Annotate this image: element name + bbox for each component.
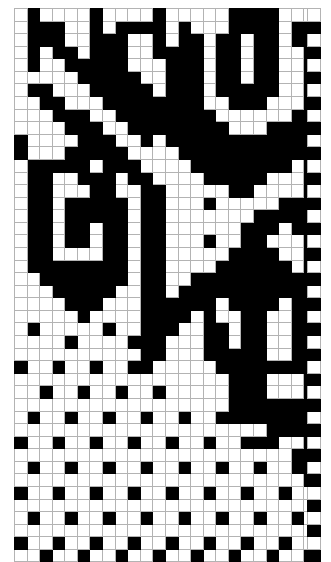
pattern-cell[interactable] xyxy=(253,273,266,286)
pattern-cell[interactable] xyxy=(266,260,279,273)
pattern-cell[interactable] xyxy=(266,46,279,59)
pattern-cell[interactable] xyxy=(65,172,78,185)
pattern-cell[interactable] xyxy=(52,147,65,160)
pattern-cell[interactable] xyxy=(216,273,229,286)
pattern-cell[interactable] xyxy=(15,512,28,525)
pattern-cell[interactable] xyxy=(115,549,128,562)
pattern-cell[interactable] xyxy=(140,424,153,437)
pattern-cell[interactable] xyxy=(15,222,28,235)
pattern-cell[interactable] xyxy=(27,97,40,110)
pattern-cell[interactable] xyxy=(103,34,116,47)
pattern-cell[interactable] xyxy=(77,524,90,537)
pattern-cell[interactable] xyxy=(153,499,166,512)
pattern-cell[interactable] xyxy=(253,34,266,47)
pattern-cell[interactable] xyxy=(65,424,78,437)
pattern-cell[interactable] xyxy=(52,235,65,248)
pattern-cell[interactable] xyxy=(291,34,304,47)
pattern-cell[interactable] xyxy=(77,46,90,59)
pattern-cell[interactable] xyxy=(77,235,90,248)
pattern-cell[interactable] xyxy=(90,411,103,424)
pattern-cell[interactable] xyxy=(191,59,204,72)
pattern-cell[interactable] xyxy=(241,71,254,84)
pattern-cell[interactable] xyxy=(65,109,78,122)
pattern-cell[interactable] xyxy=(178,222,191,235)
pattern-cell[interactable] xyxy=(279,159,292,172)
pattern-cell[interactable] xyxy=(15,260,28,273)
pattern-cell[interactable] xyxy=(90,235,103,248)
pattern-cell[interactable] xyxy=(103,109,116,122)
pattern-cell[interactable] xyxy=(40,398,53,411)
pattern-cell[interactable] xyxy=(115,134,128,147)
pattern-cell[interactable] xyxy=(65,461,78,474)
pattern-cell[interactable] xyxy=(291,323,304,336)
pattern-cell[interactable] xyxy=(140,348,153,361)
selvedge-cell[interactable] xyxy=(308,524,321,537)
pattern-cell[interactable] xyxy=(228,474,241,487)
pattern-cell[interactable] xyxy=(178,197,191,210)
pattern-cell[interactable] xyxy=(178,474,191,487)
pattern-cell[interactable] xyxy=(279,537,292,550)
pattern-cell[interactable] xyxy=(103,436,116,449)
pattern-cell[interactable] xyxy=(203,411,216,424)
pattern-cell[interactable] xyxy=(165,373,178,386)
pattern-cell[interactable] xyxy=(291,449,304,462)
pattern-cell[interactable] xyxy=(241,361,254,374)
pattern-cell[interactable] xyxy=(178,109,191,122)
pattern-cell[interactable] xyxy=(128,134,141,147)
selvedge-cell[interactable] xyxy=(308,147,321,160)
pattern-cell[interactable] xyxy=(279,147,292,160)
pattern-cell[interactable] xyxy=(178,273,191,286)
pattern-cell[interactable] xyxy=(178,323,191,336)
pattern-cell[interactable] xyxy=(191,210,204,223)
pattern-cell[interactable] xyxy=(65,398,78,411)
pattern-cell[interactable] xyxy=(40,449,53,462)
pattern-cell[interactable] xyxy=(203,109,216,122)
pattern-cell[interactable] xyxy=(216,398,229,411)
pattern-cell[interactable] xyxy=(216,310,229,323)
pattern-cell[interactable] xyxy=(15,185,28,198)
pattern-cell[interactable] xyxy=(253,147,266,160)
pattern-cell[interactable] xyxy=(27,285,40,298)
pattern-cell[interactable] xyxy=(27,21,40,34)
pattern-cell[interactable] xyxy=(27,185,40,198)
pattern-cell[interactable] xyxy=(191,71,204,84)
pattern-cell[interactable] xyxy=(241,549,254,562)
pattern-cell[interactable] xyxy=(203,386,216,399)
pattern-cell[interactable] xyxy=(191,549,204,562)
pattern-cell[interactable] xyxy=(140,336,153,349)
pattern-cell[interactable] xyxy=(228,197,241,210)
pattern-cell[interactable] xyxy=(115,323,128,336)
pattern-cell[interactable] xyxy=(27,71,40,84)
pattern-cell[interactable] xyxy=(128,122,141,135)
pattern-cell[interactable] xyxy=(191,109,204,122)
pattern-cell[interactable] xyxy=(165,310,178,323)
pattern-cell[interactable] xyxy=(65,436,78,449)
pattern-cell[interactable] xyxy=(266,285,279,298)
pattern-cell[interactable] xyxy=(153,134,166,147)
pattern-cell[interactable] xyxy=(178,46,191,59)
pattern-cell[interactable] xyxy=(253,361,266,374)
pattern-cell[interactable] xyxy=(140,84,153,97)
pattern-cell[interactable] xyxy=(52,398,65,411)
pattern-cell[interactable] xyxy=(178,84,191,97)
pattern-cell[interactable] xyxy=(40,97,53,110)
pattern-cell[interactable] xyxy=(191,172,204,185)
pattern-cell[interactable] xyxy=(216,21,229,34)
pattern-cell[interactable] xyxy=(128,373,141,386)
pattern-cell[interactable] xyxy=(77,474,90,487)
selvedge-cell[interactable] xyxy=(308,323,321,336)
pattern-cell[interactable] xyxy=(191,34,204,47)
pattern-cell[interactable] xyxy=(216,348,229,361)
pattern-cell[interactable] xyxy=(128,398,141,411)
pattern-cell[interactable] xyxy=(241,285,254,298)
pattern-cell[interactable] xyxy=(90,197,103,210)
pattern-cell[interactable] xyxy=(128,97,141,110)
pattern-cell[interactable] xyxy=(266,310,279,323)
selvedge-cell[interactable] xyxy=(308,71,321,84)
pattern-cell[interactable] xyxy=(279,424,292,437)
pattern-cell[interactable] xyxy=(103,210,116,223)
pattern-cell[interactable] xyxy=(191,449,204,462)
pattern-cell[interactable] xyxy=(140,386,153,399)
pattern-cell[interactable] xyxy=(291,474,304,487)
pattern-cell[interactable] xyxy=(241,486,254,499)
